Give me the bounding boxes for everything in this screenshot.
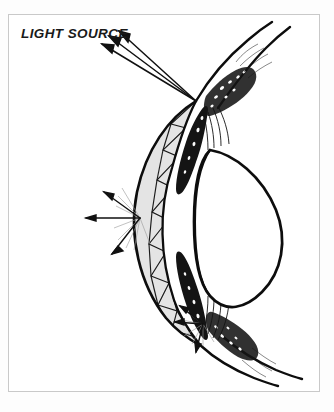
ciliary-body-upper — [204, 44, 272, 116]
incident-ray-2 — [109, 36, 196, 101]
scatter-arrows-mid — [86, 192, 140, 254]
incident-ray-1 — [119, 31, 196, 101]
lens — [194, 150, 282, 307]
incident-ray-3-arrowhead — [102, 44, 114, 53]
lens-body — [194, 150, 282, 307]
light-source-label: LIGHT SOURCE — [21, 26, 128, 41]
eye-cross-section-diagram — [0, 0, 334, 412]
ciliary-body-lower — [206, 312, 276, 377]
figure-page: LIGHT SOURCE — [0, 0, 334, 412]
incident-light-rays — [102, 31, 196, 101]
incident-ray-3 — [102, 44, 196, 101]
